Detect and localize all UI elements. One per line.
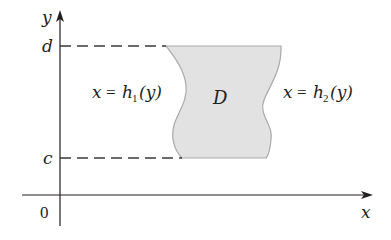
x-axis-label: x <box>361 202 371 222</box>
svg-text:=: = <box>106 83 116 102</box>
diagram-canvas: y x 0 d c D x = h 1 (y) x = h 2 (y) <box>0 0 391 240</box>
d-label: d <box>42 36 53 56</box>
svg-text:x: x <box>283 82 293 102</box>
svg-text:(y): (y) <box>330 82 353 102</box>
svg-text:=: = <box>297 83 307 102</box>
region-label: D <box>212 87 228 108</box>
c-label: c <box>43 148 53 168</box>
svg-text:1: 1 <box>132 92 138 104</box>
y-axis-label: y <box>41 7 52 27</box>
svg-text:(y): (y) <box>139 82 162 102</box>
right-curve-label: x = h 2 (y) <box>283 82 353 104</box>
origin-label: 0 <box>40 203 49 222</box>
svg-text:2: 2 <box>323 92 329 104</box>
svg-text:x: x <box>92 82 102 102</box>
left-curve-label: x = h 1 (y) <box>92 82 162 104</box>
